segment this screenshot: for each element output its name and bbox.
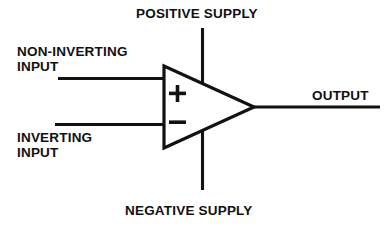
inverting-input-label: INVERTING INPUT xyxy=(17,130,92,160)
amplifier-triangle xyxy=(164,66,254,148)
positive-supply-label: POSITIVE SUPPLY xyxy=(136,6,258,21)
opamp-diagram: POSITIVE SUPPLY NEGATIVE SUPPLY NON-INVE… xyxy=(0,0,386,228)
opamp-schematic-svg xyxy=(0,0,386,228)
negative-supply-label: NEGATIVE SUPPLY xyxy=(125,203,253,218)
output-label: OUTPUT xyxy=(312,88,369,103)
minus-sign-icon xyxy=(169,120,186,124)
noninverting-input-label: NON-INVERTING INPUT xyxy=(17,44,128,74)
